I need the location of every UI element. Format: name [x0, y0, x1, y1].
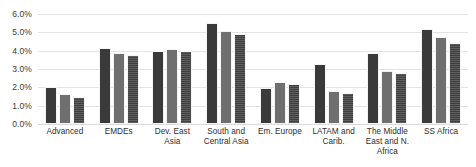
- x-axis-category-label: EMDEs: [92, 127, 146, 157]
- bar[interactable]: [314, 64, 326, 124]
- bar[interactable]: [59, 94, 71, 124]
- y-axis-tick-label: 2.0%: [12, 82, 32, 92]
- bar[interactable]: [99, 48, 111, 124]
- bar[interactable]: [288, 84, 300, 124]
- bar[interactable]: [395, 73, 407, 124]
- y-axis-tick-label: 4.0%: [12, 46, 32, 56]
- x-axis-category-label: South and Central Asia: [199, 127, 253, 157]
- y-axis-labels: 6.0%5.0%4.0%3.0%2.0%1.0%0.0%: [0, 0, 36, 167]
- axis-baseline: [38, 124, 468, 125]
- y-axis-tick-label: 0.0%: [12, 119, 32, 129]
- bar[interactable]: [73, 97, 85, 125]
- y-axis-tick-label: 1.0%: [12, 101, 32, 111]
- bar-group: [307, 14, 361, 124]
- bar-group: [199, 14, 253, 124]
- x-axis-category-label: Advanced: [38, 127, 92, 157]
- bar[interactable]: [328, 91, 340, 124]
- bar[interactable]: [381, 71, 393, 124]
- y-axis-tick-label: 5.0%: [12, 27, 32, 37]
- bar-group: [38, 14, 92, 124]
- bar[interactable]: [127, 55, 139, 124]
- bar[interactable]: [234, 34, 246, 124]
- bar[interactable]: [342, 93, 354, 124]
- bar-group: [146, 14, 200, 124]
- bar[interactable]: [180, 51, 192, 124]
- bar[interactable]: [152, 51, 164, 124]
- bar[interactable]: [113, 53, 125, 124]
- y-axis-tick-label: 6.0%: [12, 9, 32, 19]
- bar[interactable]: [260, 88, 272, 124]
- x-axis-category-label: SS Africa: [414, 127, 468, 157]
- x-axis-category-label: Dev. East Asia: [146, 127, 200, 157]
- bar[interactable]: [206, 23, 218, 124]
- clipped-caption: [292, 158, 472, 166]
- bar-groups: [38, 14, 468, 124]
- bar[interactable]: [449, 43, 461, 124]
- bar-group: [361, 14, 415, 124]
- bar-group: [92, 14, 146, 124]
- y-axis-tick-label: 3.0%: [12, 64, 32, 74]
- bar[interactable]: [45, 87, 57, 124]
- bar[interactable]: [421, 29, 433, 124]
- x-axis-category-label: LATAM and Carib.: [307, 127, 361, 157]
- bar[interactable]: [220, 31, 232, 125]
- bar[interactable]: [274, 82, 286, 124]
- bar[interactable]: [166, 49, 178, 124]
- bar-group: [253, 14, 307, 124]
- x-axis-category-label: The Middle East and N. Africa: [361, 127, 415, 157]
- bar-chart: 6.0%5.0%4.0%3.0%2.0%1.0%0.0% AdvancedEMD…: [0, 0, 476, 167]
- bar-group: [414, 14, 468, 124]
- x-axis-labels: AdvancedEMDEsDev. East AsiaSouth and Cen…: [38, 127, 468, 157]
- bar[interactable]: [435, 37, 447, 124]
- x-axis-category-label: Em. Europe: [253, 127, 307, 157]
- bar[interactable]: [367, 53, 379, 124]
